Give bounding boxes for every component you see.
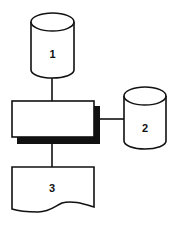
cylinder-node-1: 1 bbox=[31, 13, 74, 78]
document-node-3: 3 bbox=[12, 167, 94, 212]
node-1-label: 1 bbox=[49, 48, 55, 60]
cylinder-node-2: 2 bbox=[124, 87, 166, 149]
flowchart: 1 2 3 bbox=[0, 0, 176, 228]
node-3-label: 3 bbox=[49, 182, 55, 194]
process-node bbox=[12, 101, 100, 144]
node-2-label: 2 bbox=[142, 122, 148, 134]
